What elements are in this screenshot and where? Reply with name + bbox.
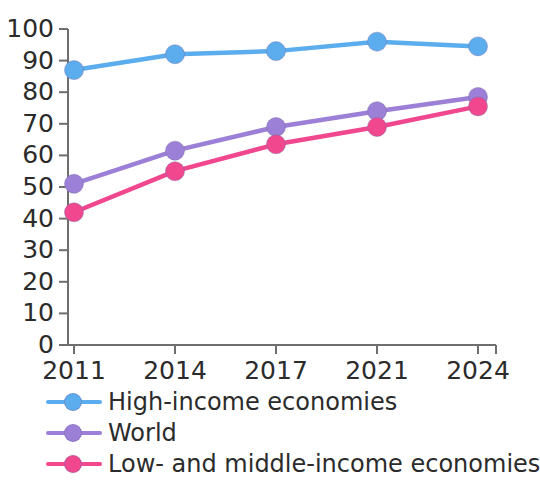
y-axis-tick-label: 30 — [0, 237, 54, 262]
legend-item[interactable]: High-income economies — [46, 386, 510, 417]
legend-label: High-income economies — [102, 390, 397, 414]
legend-item[interactable]: Low- and middle-income economies — [46, 448, 510, 479]
y-axis-tick-label: 20 — [0, 269, 54, 294]
legend-dot-icon — [64, 424, 82, 442]
legend-dot-icon — [64, 455, 82, 473]
data-point — [166, 162, 185, 181]
y-axis-tick-label: 10 — [0, 300, 54, 325]
y-axis-tick-label: 60 — [0, 142, 54, 167]
legend-label: Low- and middle-income economies — [102, 452, 540, 476]
legend-dot-icon — [64, 393, 82, 411]
y-axis-tick-label: 40 — [0, 206, 54, 231]
x-axis-tick-label: 2017 — [221, 358, 331, 383]
legend-marker — [46, 422, 102, 444]
y-axis-tick-label: 50 — [0, 174, 54, 199]
data-point — [65, 174, 84, 193]
y-axis-tick-label: 80 — [0, 79, 54, 104]
series-layer — [65, 32, 488, 222]
legend-marker — [46, 391, 102, 413]
data-point — [368, 117, 387, 136]
legend-marker — [46, 453, 102, 475]
y-axis-tick-label: 90 — [0, 48, 54, 73]
chart-legend: High-income economiesWorldLow- and middl… — [46, 386, 510, 479]
x-axis-tick-label: 2011 — [19, 358, 129, 383]
y-axis-tick-label: 0 — [0, 332, 54, 357]
legend-item[interactable]: World — [46, 417, 510, 448]
data-point — [65, 203, 84, 222]
y-axis-tick-label: 100 — [0, 16, 54, 41]
x-axis-tick-label: 2021 — [322, 358, 432, 383]
data-point — [469, 37, 488, 56]
data-point — [469, 97, 488, 116]
plot-area: 0102030405060708090100 20112014201720212… — [0, 0, 510, 372]
data-point — [166, 141, 185, 160]
data-point — [267, 42, 286, 61]
data-point — [166, 45, 185, 64]
data-point — [267, 135, 286, 154]
x-axis-tick-label: 2014 — [120, 358, 230, 383]
series-markers-0 — [65, 32, 488, 79]
data-point — [267, 117, 286, 136]
legend-label: World — [102, 421, 177, 445]
data-point — [368, 32, 387, 51]
data-point — [65, 61, 84, 80]
y-axis-tick-label: 70 — [0, 111, 54, 136]
x-axis-tick-label: 2024 — [423, 358, 533, 383]
line-chart-svg — [0, 0, 510, 372]
